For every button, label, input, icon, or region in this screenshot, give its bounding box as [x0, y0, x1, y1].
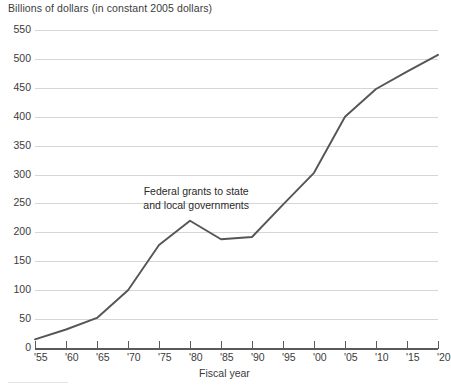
series-annotation-label: Federal grants to state and local govern…: [101, 184, 291, 212]
x-axis-line: [35, 348, 438, 350]
footer-divider: [8, 382, 68, 383]
x-axis-title: Fiscal year: [0, 367, 449, 379]
